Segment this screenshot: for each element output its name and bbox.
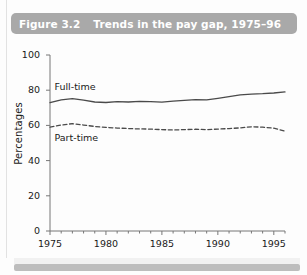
figure-number: Figure 3.2 bbox=[11, 18, 80, 30]
series-label-part-time: Part-time bbox=[54, 132, 98, 143]
y-tick-label: 60 bbox=[14, 119, 40, 130]
figure-caption-text: Trends in the pay gap, 1975–96 bbox=[80, 18, 281, 30]
x-tick-label: 1995 bbox=[257, 238, 291, 249]
y-tick-label: 80 bbox=[14, 84, 40, 95]
y-tick-label: 20 bbox=[14, 190, 40, 201]
x-tick-label: 1990 bbox=[201, 238, 235, 249]
x-tick-label: 1985 bbox=[145, 238, 179, 249]
chart-series-lines bbox=[50, 92, 285, 131]
figure-caption-banner: Figure 3.2 Trends in the pay gap, 1975–9… bbox=[11, 13, 297, 34]
x-tick-label: 1975 bbox=[33, 238, 67, 249]
series-label-full-time: Full-time bbox=[54, 81, 95, 92]
chart-area: Percentages 020406080100 197519801985199… bbox=[0, 36, 307, 248]
y-tick-label: 40 bbox=[14, 155, 40, 166]
y-tick-label: 100 bbox=[14, 49, 40, 60]
chart-plot bbox=[0, 36, 307, 248]
series-line-part-time bbox=[50, 124, 285, 131]
y-tick-label: 0 bbox=[14, 225, 40, 236]
figure-panel: Figure 3.2 Trends in the pay gap, 1975–9… bbox=[0, 0, 307, 275]
footer-bar bbox=[14, 264, 300, 271]
series-line-full-time bbox=[50, 92, 285, 103]
x-tick-label: 1980 bbox=[89, 238, 123, 249]
